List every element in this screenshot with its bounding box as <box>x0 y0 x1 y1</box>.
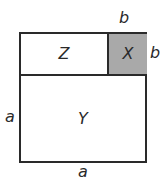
region-x: X <box>107 34 147 74</box>
outer-square: Z X Y <box>19 32 147 163</box>
region-z-label: Z <box>59 46 70 62</box>
dimension-label-top: b <box>119 10 129 26</box>
dimension-label-bottom: a <box>78 164 88 180</box>
region-x-label: X <box>123 46 134 62</box>
region-y: Y <box>21 76 145 161</box>
dimension-label-right: b <box>150 45 160 61</box>
region-y-label: Y <box>78 111 88 127</box>
dimension-label-left: a <box>5 109 15 125</box>
top-strip: Z X <box>21 34 145 76</box>
region-z: Z <box>21 34 107 74</box>
